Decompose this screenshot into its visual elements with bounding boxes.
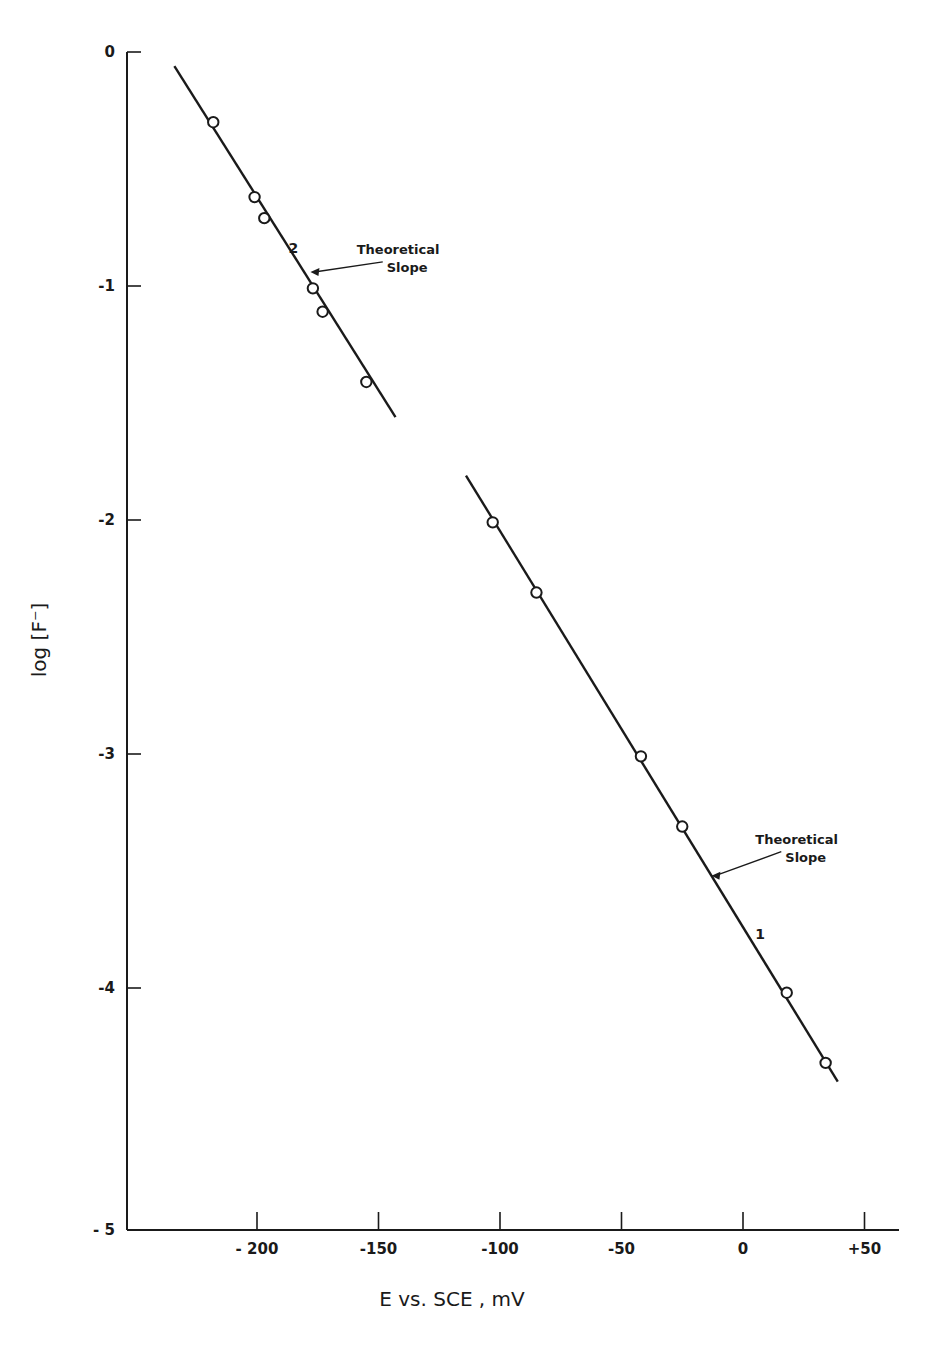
annotation-line-1: Theoretical — [755, 832, 838, 847]
data-point-marker — [782, 987, 792, 997]
data-point-marker — [677, 821, 687, 831]
annotation-line-2: Slope — [387, 260, 428, 275]
data-point-marker — [361, 377, 371, 387]
arrowhead-icon — [310, 268, 319, 276]
series-layer: 2TheoreticalSlope1TheoreticalSlope — [174, 66, 838, 1082]
y-tick-label: 0 — [105, 43, 115, 61]
x-tick-label: +50 — [848, 1240, 881, 1258]
y-tick-label: -3 — [98, 745, 115, 763]
series-2: 2TheoreticalSlope — [174, 66, 439, 417]
arrow-icon — [314, 262, 382, 272]
x-tick-label: -50 — [608, 1240, 635, 1258]
data-point-marker — [208, 117, 218, 127]
figure: - 200-150-100-500+50 0-1-2-3-4- 5 2Theor… — [0, 0, 932, 1354]
x-axis-title: E vs. SCE , mV — [379, 1287, 525, 1311]
series-label: 1 — [755, 926, 765, 942]
x-tick-label: -150 — [360, 1240, 398, 1258]
data-point-marker — [259, 213, 269, 223]
axes — [127, 52, 899, 1230]
y-tick-label: - 5 — [93, 1221, 115, 1239]
theoretical-slope-annotation: TheoreticalSlope — [310, 242, 439, 276]
x-tick-label: - 200 — [236, 1240, 279, 1258]
data-point-marker — [488, 517, 498, 527]
x-axis-ticks: - 200-150-100-500+50 — [236, 1212, 882, 1258]
data-point-marker — [249, 192, 259, 202]
data-point-marker — [308, 283, 318, 293]
y-tick-label: -4 — [98, 979, 115, 997]
annotation-line-1: Theoretical — [357, 242, 440, 257]
y-axis-title: log [F⁻] — [27, 603, 51, 678]
y-axis-ticks: 0-1-2-3-4- 5 — [93, 43, 141, 1239]
data-point-marker — [636, 751, 646, 761]
theoretical-slope-annotation: TheoreticalSlope — [711, 832, 838, 880]
x-tick-label: -100 — [481, 1240, 519, 1258]
annotation-line-2: Slope — [785, 850, 826, 865]
data-point-marker — [317, 307, 327, 317]
series-label: 2 — [289, 240, 299, 256]
y-tick-label: -1 — [98, 277, 115, 295]
x-tick-label: 0 — [738, 1240, 748, 1258]
chart: - 200-150-100-500+50 0-1-2-3-4- 5 2Theor… — [0, 0, 932, 1354]
data-point-marker — [531, 587, 541, 597]
data-point-marker — [820, 1058, 830, 1068]
arrow-icon — [715, 852, 781, 876]
y-tick-label: -2 — [98, 511, 115, 529]
series-1: 1TheoreticalSlope — [466, 476, 838, 1082]
